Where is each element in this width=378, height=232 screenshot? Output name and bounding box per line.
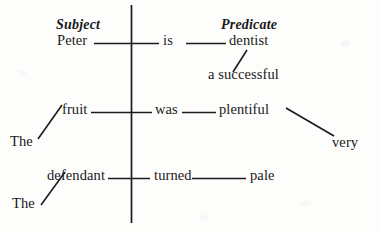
complement-word-1: dentist [229, 33, 268, 48]
complement-word-2: plentiful [219, 102, 269, 117]
predicate-column-header: Predicate [221, 18, 277, 32]
subject-column-header: Subject [56, 18, 100, 32]
modifier-line-very [286, 108, 334, 136]
verb-word-2: was [155, 102, 178, 117]
sentence-diagram-page: Subject Predicate Peter is dentist a suc… [0, 0, 378, 232]
complement-word-3: pale [250, 168, 275, 183]
modifier-line-the-fruit [38, 105, 62, 139]
modifier-word-a-successful: a successful [208, 67, 279, 82]
verb-word-1: is [163, 33, 173, 48]
subject-word-3: defendant [47, 168, 105, 183]
subject-word-2: fruit [62, 102, 87, 117]
subject-word-1: Peter [57, 33, 87, 48]
modifier-word-the-defendant: The [12, 196, 35, 211]
modifier-word-very: very [332, 135, 358, 150]
verb-word-3: turned [154, 168, 192, 183]
modifier-word-the-fruit: The [10, 134, 33, 149]
